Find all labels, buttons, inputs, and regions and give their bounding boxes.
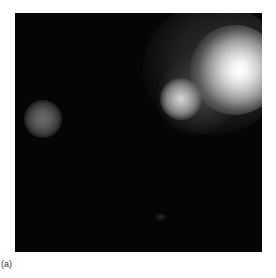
very-faint-spot xyxy=(155,213,167,221)
panel-label: (a) xyxy=(1,259,12,269)
secondary-bright-spot xyxy=(160,78,202,120)
figure-image xyxy=(15,13,262,252)
faint-spot xyxy=(24,100,62,138)
